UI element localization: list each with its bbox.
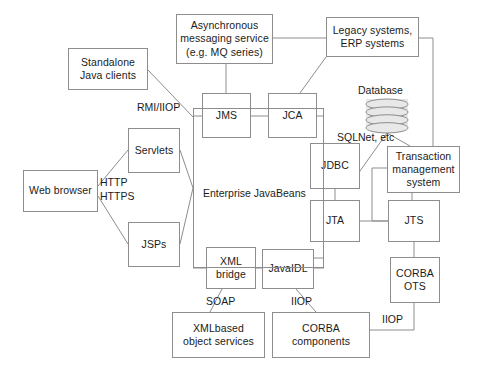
node-label-line: JTA bbox=[324, 214, 346, 227]
connector-jsps-to-ejb bbox=[180, 188, 193, 244]
node-jts[interactable]: JTS bbox=[388, 200, 440, 242]
node-label: JSPs bbox=[140, 238, 169, 251]
edge-label-sqlnet-etc: SQLNet, etc bbox=[337, 131, 394, 144]
node-label: CORBA components bbox=[273, 322, 369, 348]
node-label-line: management bbox=[390, 163, 456, 176]
node-corba-ots[interactable]: CORBAOTS bbox=[390, 257, 440, 303]
node-label-line: system bbox=[390, 176, 456, 189]
node-label-line: object services bbox=[181, 335, 256, 348]
node-web-browser[interactable]: Web browser bbox=[23, 170, 98, 212]
connector-browser-to-jsps bbox=[98, 196, 128, 244]
node-label-line: Legacy systems, bbox=[331, 24, 415, 37]
node-label: Asynchronousmessaging service(e.g. MQ se… bbox=[178, 19, 271, 58]
node-label: Servlets bbox=[133, 144, 176, 157]
node-label-line: (e.g. MQ series) bbox=[178, 46, 271, 59]
node-legacy-erp-systems[interactable]: Legacy systems,ERP systems bbox=[326, 17, 419, 57]
node-label: CORBAOTS bbox=[394, 267, 436, 293]
connector-servlets-to-ejb bbox=[180, 150, 193, 188]
enterprise-javabeans-label: Enterprise JavaBeans bbox=[203, 187, 306, 199]
node-label-line: Asynchronous bbox=[178, 19, 271, 32]
node-label-line: Java clients bbox=[78, 69, 138, 82]
node-label: XMLbasedobject services bbox=[181, 322, 256, 348]
connector-legacy-to-right-bus bbox=[419, 38, 433, 146]
node-servlets[interactable]: Servlets bbox=[128, 128, 180, 173]
database-label: Database bbox=[358, 84, 403, 96]
node-transaction-management-system[interactable]: Transactionmanagementsystem bbox=[387, 146, 460, 193]
node-async-messaging-service[interactable]: Asynchronousmessaging service(e.g. MQ se… bbox=[176, 14, 273, 64]
node-label-line: ERP systems bbox=[331, 37, 415, 50]
node-jsps[interactable]: JSPs bbox=[128, 222, 180, 267]
node-label: Legacy systems,ERP systems bbox=[331, 24, 415, 50]
edge-label-rmi-iiop: RMI/IIOP bbox=[137, 101, 180, 114]
edge-label-soap: SOAP bbox=[206, 295, 235, 308]
node-label-line: OTS bbox=[394, 280, 436, 293]
database-cylinder bbox=[366, 99, 408, 133]
node-label-line: bridge bbox=[214, 268, 248, 281]
node-label-line: CORBA bbox=[394, 267, 436, 280]
node-corba-components[interactable]: CORBA components bbox=[272, 312, 370, 358]
node-label-line: Servlets bbox=[133, 144, 176, 157]
node-label-line: CORBA components bbox=[273, 322, 369, 348]
node-label: Transactionmanagementsystem bbox=[390, 150, 456, 189]
node-label: Web browser bbox=[27, 184, 94, 197]
node-label: StandaloneJava clients bbox=[78, 56, 138, 82]
node-label-line: Transaction bbox=[390, 150, 456, 163]
architecture-diagram: StandaloneJava clientsAsynchronousmessag… bbox=[0, 0, 477, 386]
connector-legacy-to-jca bbox=[300, 57, 326, 93]
edge-label-iiop-corba-ots: IIOP bbox=[382, 313, 403, 326]
node-label-line: XMLbased bbox=[181, 322, 256, 335]
node-label: JTS bbox=[403, 214, 426, 227]
node-xmlbased-object-services[interactable]: XMLbasedobject services bbox=[172, 312, 265, 358]
connector-tms-left-bus bbox=[372, 168, 388, 221]
edge-label-http: HTTP bbox=[100, 176, 127, 189]
node-label: JTA bbox=[324, 214, 346, 227]
edge-label-iiop-javaidl: IIOP bbox=[291, 295, 312, 308]
node-label-line: Web browser bbox=[27, 184, 94, 197]
node-label-line: JSPs bbox=[140, 238, 169, 251]
node-label-line: Standalone bbox=[78, 56, 138, 69]
node-standalone-java-clients[interactable]: StandaloneJava clients bbox=[68, 48, 148, 90]
node-label-line: messaging service bbox=[178, 32, 271, 45]
edge-label-https: HTTPS bbox=[100, 190, 134, 203]
node-label-line: JTS bbox=[403, 214, 426, 227]
